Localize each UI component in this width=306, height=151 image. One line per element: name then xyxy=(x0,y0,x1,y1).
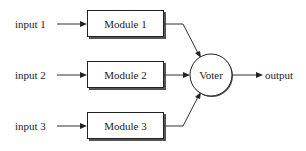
module-1-label: Module 1 xyxy=(104,18,146,30)
module-3-label: Module 3 xyxy=(104,120,147,132)
input-1-label: input 1 xyxy=(15,18,46,30)
output-label: output xyxy=(265,69,293,81)
module-1-to-voter-arrow xyxy=(164,24,201,58)
input-2-arrow xyxy=(57,72,87,78)
voter-label: Voter xyxy=(199,69,223,81)
module-1-box: Module 1 xyxy=(88,11,167,40)
input-1-arrow xyxy=(57,21,87,27)
module-3-box: Module 3 xyxy=(88,113,167,142)
tmr-diagram: input 1 input 2 input 3 Module 1 Module … xyxy=(0,0,306,151)
input-2-label: input 2 xyxy=(15,69,46,81)
voter-circle: Voter xyxy=(190,54,233,97)
input-3-arrow xyxy=(57,123,87,129)
input-3-label: input 3 xyxy=(15,120,46,132)
module-3-to-voter-arrow xyxy=(164,92,201,126)
module-2-box: Module 2 xyxy=(88,62,167,91)
module-2-to-voter-arrow xyxy=(164,72,190,78)
output-arrow xyxy=(232,72,263,78)
module-2-label: Module 2 xyxy=(104,69,146,81)
